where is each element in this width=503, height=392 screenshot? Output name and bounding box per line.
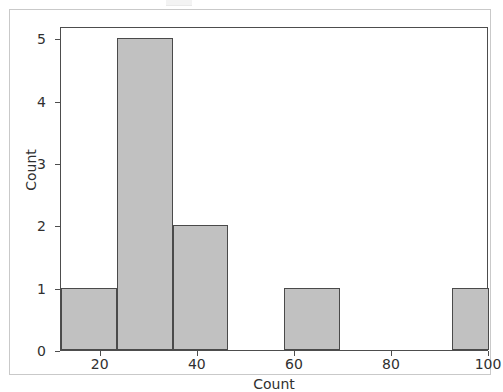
histogram-bar xyxy=(61,288,117,350)
histogram-bars xyxy=(61,28,487,350)
y-axis-tick-labels: 012345 xyxy=(10,27,54,351)
histogram-bar xyxy=(452,288,489,350)
y-tick-label: 0 xyxy=(37,344,46,358)
scan-artifact xyxy=(166,0,192,6)
y-tick-label: 2 xyxy=(37,219,46,233)
y-tick-label: 5 xyxy=(37,32,46,46)
y-tick-label: 4 xyxy=(37,95,46,109)
x-tick-label: 60 xyxy=(285,357,303,371)
x-axis-title: Count xyxy=(60,376,488,392)
y-tick-label: 1 xyxy=(37,282,46,296)
x-tick-label: 80 xyxy=(382,357,400,371)
histogram-bar xyxy=(284,288,340,350)
histogram-bar xyxy=(173,225,229,350)
x-tick-label: 100 xyxy=(475,357,502,371)
x-tick-label: 40 xyxy=(188,357,206,371)
histogram-bar xyxy=(117,38,173,350)
x-tick-label: 20 xyxy=(91,357,109,371)
figure-frame: Count 012345 20406080100 Count xyxy=(9,9,491,375)
x-axis-tick-labels: 20406080100 xyxy=(60,357,488,377)
y-tick-label: 3 xyxy=(37,157,46,171)
plot-area xyxy=(60,27,488,351)
